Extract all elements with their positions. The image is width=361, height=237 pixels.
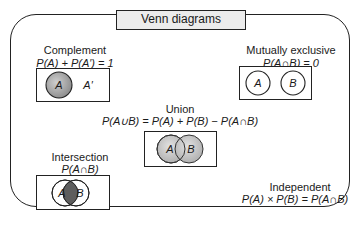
me-set-a: A: [251, 77, 265, 89]
union-set-a: A: [163, 143, 177, 155]
me-set-b: B: [286, 77, 300, 89]
intersection-set-a: A: [55, 187, 69, 199]
complement-set-a: A: [52, 79, 66, 91]
intersection-set-b: B: [73, 187, 87, 199]
complement-set-a-prime: A′: [80, 79, 96, 91]
union-set-b: B: [184, 143, 198, 155]
venn-shapes: [0, 0, 361, 237]
